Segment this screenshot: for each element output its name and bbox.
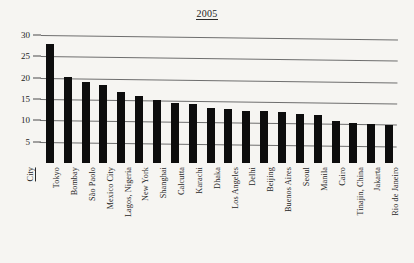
x-tick-label: Bombay [71,167,79,195]
bar [153,100,161,163]
bar [367,124,375,163]
y-tick-label-5: 5 [26,137,31,146]
x-tick-label: Manila [321,167,329,191]
x-tick-label: Rio de Janeiro [392,167,400,216]
bar [117,92,125,163]
y-tick-label-10: 10 [21,116,30,125]
x-tick-label: Tokyo [53,167,61,188]
x-tick-label: Cairo [339,167,347,186]
bar [82,82,90,163]
bar-series [41,35,398,163]
bar [99,85,107,163]
x-axis: TokyoBombaySão PaoloMexico CityLagos, Ni… [41,163,398,263]
x-tick-label: Shanghai [160,167,168,198]
x-tick-label: Delhi [249,167,257,186]
x-tick-label: São Paolo [89,167,97,201]
y-tick-mark-30 [33,35,41,36]
chart-title-text: 2005 [196,8,217,20]
x-tick-label: Tinajin, China [357,167,365,215]
x-tick-label: New York [142,167,150,201]
chart-title: 2005 [0,8,414,19]
bar [332,121,340,163]
bar [260,111,268,163]
bar [349,123,357,163]
bar [314,115,322,163]
plot-area [41,35,398,163]
bar [189,104,197,163]
bar [64,77,72,163]
x-tick-label: Karachi [196,167,204,194]
bar [278,112,286,163]
x-tick-label: Lagos, Nigeria [125,167,133,217]
x-axis-title-text: City [26,167,36,181]
x-tick-label: Jakarta [374,167,382,191]
x-axis-title: City [27,167,35,181]
bar [207,108,215,163]
x-tick-label: Seoul [303,167,311,186]
bar [171,103,179,163]
bar [242,111,250,163]
y-tick-label-15: 15 [21,95,30,104]
x-tick-label: Beijing [267,167,275,192]
x-tick-label: Dhaka [214,167,222,189]
x-tick-label: Buenos Aires [285,167,293,212]
x-tick-label: Calcutta [178,167,186,195]
x-tick-label: Mexico City [107,167,115,209]
x-tick-label: Los Angeles [232,167,240,209]
bar-chart-figure: 2005 51015202530 TokyoBombaySão PaoloMex… [0,0,414,263]
y-tick-label-25: 25 [21,52,30,61]
bar [296,114,304,163]
y-tick-label-30: 30 [21,31,30,40]
bar [385,125,393,163]
bar [135,96,143,163]
y-tick-label-20: 20 [21,73,30,82]
y-axis: 51015202530 [0,35,41,163]
bar [46,44,54,163]
bar [224,109,232,163]
